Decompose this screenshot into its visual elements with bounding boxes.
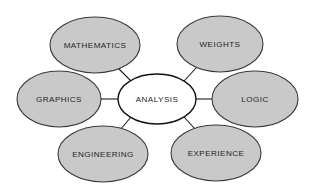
connector-analysis-mathematics — [118, 68, 131, 81]
node-label-logic: LOGIC — [241, 95, 268, 104]
node-label-weights: WEIGHTS — [200, 40, 241, 49]
node-weights[interactable]: WEIGHTS — [177, 16, 263, 72]
node-experience[interactable]: EXPERIENCE — [171, 125, 261, 181]
node-engineering[interactable]: ENGINEERING — [58, 126, 148, 182]
node-label-engineering: ENGINEERING — [72, 150, 134, 159]
node-analysis[interactable]: ANALYSIS — [118, 74, 196, 124]
concept-map-diagram: MATHEMATICS WEIGHTS GRAPHICS LOGIC ENGIN… — [0, 0, 311, 196]
node-mathematics[interactable]: MATHEMATICS — [50, 17, 140, 73]
node-label-mathematics: MATHEMATICS — [64, 41, 127, 50]
node-graphics[interactable]: GRAPHICS — [17, 71, 101, 127]
diagram-canvas: MATHEMATICS WEIGHTS GRAPHICS LOGIC ENGIN… — [0, 0, 311, 196]
node-logic[interactable]: LOGIC — [212, 71, 298, 127]
node-label-experience: EXPERIENCE — [188, 149, 245, 158]
connector-analysis-weights — [184, 67, 197, 81]
node-label-analysis: ANALYSIS — [136, 95, 179, 104]
node-label-graphics: GRAPHICS — [36, 95, 82, 104]
